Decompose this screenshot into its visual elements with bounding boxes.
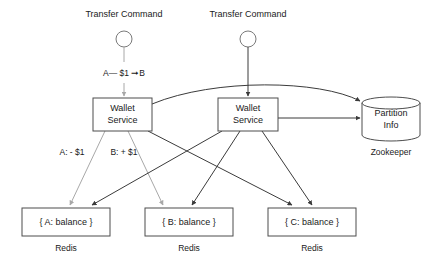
- command-label-right: Transfer Command: [209, 9, 286, 19]
- wallet-service-1-line1: Wallet: [110, 103, 135, 113]
- transfer-expression-label: A— $1 ➞B: [103, 68, 145, 78]
- edge-wallet1-to-redis-a: [70, 131, 105, 205]
- edge-wallet1-to-redis-c: [148, 131, 292, 205]
- command-label-left: Transfer Command: [85, 9, 162, 19]
- partition-info-cylinder: [362, 97, 420, 141]
- edge-wallet2-to-redis-a: [92, 131, 222, 205]
- redis-a-label: { A: balance }: [39, 217, 92, 227]
- redis-c-caption: Redis: [301, 243, 323, 253]
- wallet-service-2-line1: Wallet: [236, 103, 261, 113]
- credit-edge-label: B: + $1: [110, 147, 137, 157]
- redis-b-label: { B: balance }: [162, 217, 216, 227]
- edge-wallet2-to-redis-b: [192, 131, 240, 205]
- diagram-canvas: Transfer Command Transfer Command A— $1 …: [0, 0, 445, 265]
- wallet-service-2-line2: Service: [233, 115, 263, 125]
- architecture-diagram: Transfer Command Transfer Command A— $1 …: [0, 0, 445, 265]
- redis-b-caption: Redis: [178, 243, 200, 253]
- partition-info-line1: Partition: [374, 108, 407, 118]
- wallet-service-1-line2: Service: [107, 115, 137, 125]
- zookeeper-caption: Zookeeper: [371, 147, 412, 157]
- command-node-left: [116, 31, 132, 47]
- redis-c-label: { C: balance }: [285, 217, 339, 227]
- partition-info-line2: Info: [383, 120, 398, 130]
- command-node-right: [240, 31, 256, 47]
- redis-a-caption: Redis: [55, 243, 77, 253]
- debit-edge-label: A: - $1: [59, 147, 84, 157]
